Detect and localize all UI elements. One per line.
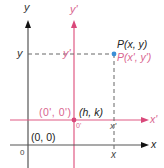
x-prime-tick-label: x' <box>110 121 116 131</box>
translated-origin-coords: (h, k) <box>79 106 103 118</box>
original-origin-tick: 0 <box>20 148 24 157</box>
point-label-original: P(x, y) <box>117 38 147 50</box>
translated-origin-tick: 0' <box>76 122 81 129</box>
x-prime-axis-label: x' <box>150 113 157 125</box>
translation-of-axes-diagram <box>0 0 164 168</box>
translated-origin-label: (0', 0') <box>39 106 72 118</box>
translated-y-axis <box>71 20 77 168</box>
arrow-right-icon <box>141 117 149 123</box>
y-prime-axis-label: y' <box>70 3 78 15</box>
arrow-right-icon <box>141 142 149 148</box>
y-prime-tick-label: y' <box>63 47 71 59</box>
original-y-axis <box>25 20 31 168</box>
point-label-translated: P(x', y') <box>117 51 151 63</box>
x-axis-label: x <box>151 138 156 150</box>
original-origin-label: (0, 0) <box>31 131 56 143</box>
y-axis-label: y <box>24 1 30 13</box>
point-p <box>112 52 117 57</box>
x-tick-label: x <box>111 149 116 160</box>
y-tick-label: y <box>17 47 23 59</box>
arrow-up-icon <box>71 20 77 28</box>
arrow-up-icon <box>25 20 31 28</box>
